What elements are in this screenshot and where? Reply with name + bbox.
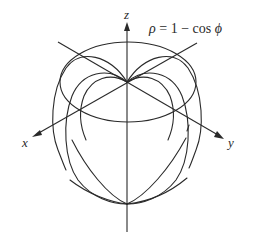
meridian-inner-right-lower (127, 138, 186, 204)
y-axis-arrowhead (214, 131, 224, 139)
meridian-front-left (66, 73, 127, 204)
meridian-inner-left-lower (72, 140, 127, 204)
z-axis-arrowhead (124, 22, 130, 31)
lower-arc-right (127, 178, 187, 204)
meridian-outer-left (53, 57, 127, 170)
equation-phi: ϕ (215, 21, 222, 36)
y-axis (58, 42, 218, 135)
cardioid-surface-figure: z x y ρ = 1 − cos ϕ (0, 0, 253, 241)
y-axis-label: y (226, 135, 234, 150)
z-axis-label: z (123, 7, 129, 22)
x-axis-arrowhead (32, 130, 42, 137)
equation-label: ρ = 1 − cos ϕ (148, 21, 222, 36)
equation-body: = 1 − cos (156, 21, 215, 36)
lower-arc-left (70, 180, 127, 204)
x-axis-label: x (21, 135, 28, 150)
meridian-outer-right (127, 57, 201, 168)
